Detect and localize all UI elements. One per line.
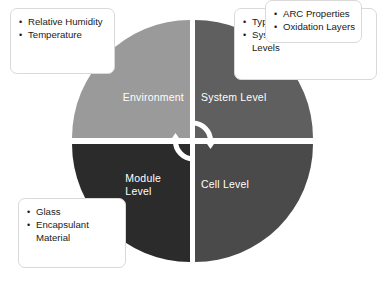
wheel-quadrant-cell-level[interactable]: Cell Level bbox=[195, 144, 313, 262]
wheel-quadrant-label-module-level: Module Level bbox=[125, 172, 161, 198]
list-item: Relative Humidity bbox=[19, 16, 108, 28]
callout-list: Relative Humidity Temperature bbox=[19, 16, 108, 42]
callout-module-level[interactable]: Glass Encapsulant Material bbox=[18, 198, 126, 268]
wheel-quadrant-label-environment: Environment bbox=[123, 91, 184, 104]
list-item: ARC Properties bbox=[274, 8, 355, 20]
list-item: Oxidation Layers bbox=[274, 21, 355, 33]
list-item: Temperature bbox=[19, 29, 108, 41]
wheel-quadrant-label-system-level: System Level bbox=[201, 91, 266, 104]
list-item: Encapsulant Material bbox=[27, 219, 119, 244]
callout-list: ARC Properties Oxidation Layers bbox=[274, 8, 355, 34]
callout-cell-level[interactable]: ARC Properties Oxidation Layers bbox=[265, 0, 362, 43]
list-item: Glass bbox=[27, 206, 119, 218]
callout-environment[interactable]: Relative Humidity Temperature bbox=[10, 8, 115, 74]
wheel-quadrant-label-cell-level: Cell Level bbox=[201, 178, 249, 191]
callout-list: Glass Encapsulant Material bbox=[27, 206, 119, 244]
